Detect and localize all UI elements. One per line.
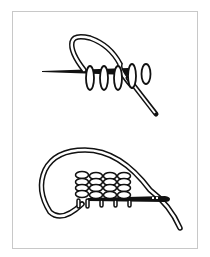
top-step-figure	[42, 37, 156, 114]
stitch-illustration	[0, 0, 210, 257]
needle-loops	[86, 64, 151, 90]
stitch-rows	[76, 172, 131, 199]
bottom-step-figure	[41, 150, 180, 228]
